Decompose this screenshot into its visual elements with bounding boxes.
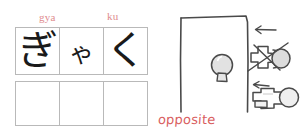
kana-grid-empty-row[interactable]: [15, 81, 148, 126]
arrow-left-upper-icon: [256, 26, 277, 34]
kana-glyph-ku: く: [106, 30, 146, 70]
worksheet-page: gya ku ぎ ゃ く: [0, 0, 308, 137]
kana-grid-filled-row: ぎ ゃ く: [15, 27, 148, 75]
kana-cell-blank[interactable]: [16, 82, 60, 125]
kana-cell: ゃ: [60, 28, 104, 74]
kana-practice-panel: gya ku ぎ ゃ く: [0, 0, 155, 137]
door-sketch-panel: opposite: [155, 0, 308, 137]
opposite-caption: opposite: [158, 113, 216, 126]
lever-handle-side-view-icon: [253, 88, 299, 109]
doorknob-side-view-crossed-icon: [248, 43, 290, 71]
kana-glyph-small-ya: ゃ: [69, 41, 94, 66]
romaji-label-gya: gya: [39, 12, 56, 23]
kana-glyph-gi: ぎ: [18, 30, 58, 70]
doorknob-icon: [212, 55, 233, 82]
kana-cell: く: [104, 28, 147, 74]
arrow-left-lower-icon: [254, 82, 270, 89]
kana-cell: ぎ: [16, 28, 60, 74]
romaji-label-ku: ku: [107, 11, 119, 22]
kana-cell-blank[interactable]: [60, 82, 104, 125]
kana-cell-blank[interactable]: [104, 82, 147, 125]
